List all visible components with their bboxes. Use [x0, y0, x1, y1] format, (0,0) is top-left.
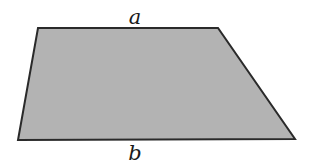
trapezoid-shape — [18, 28, 295, 140]
bottom-base-label: b — [128, 141, 141, 165]
top-base-label: a — [129, 5, 142, 29]
trapezoid-diagram: a b — [0, 0, 309, 167]
diagram-canvas: a b — [0, 0, 309, 167]
